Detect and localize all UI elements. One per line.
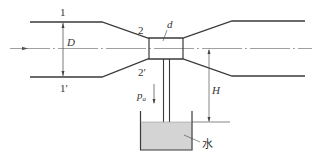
label-pa: pa: [136, 89, 147, 103]
water-body: [141, 122, 192, 150]
label-section-2-prime: 2′: [138, 66, 146, 78]
label-water: 水: [202, 138, 213, 151]
label-d: d: [167, 18, 173, 30]
dimension-H-arrow-top-icon: [208, 49, 211, 54]
label-section-1: 1: [60, 6, 66, 18]
label-section-2: 2: [138, 24, 144, 36]
label-D: D: [66, 36, 75, 48]
pa-arrow-icon: [153, 99, 156, 104]
flow-arrow-icon: [22, 47, 28, 50]
label-H: H: [211, 84, 221, 96]
dimension-d-leader: [163, 30, 167, 41]
label-section-1-prime: 1′: [60, 82, 68, 94]
dimension-D-arrow-bottom-icon: [62, 71, 65, 76]
dimension-H-arrow-bottom-icon: [208, 117, 211, 122]
dimension-D-arrow-top-icon: [62, 23, 65, 28]
venturi-diagram: 1 1′ 2 2′ D d pa H 水: [0, 0, 320, 162]
pipe-lower-wall: [30, 59, 305, 77]
